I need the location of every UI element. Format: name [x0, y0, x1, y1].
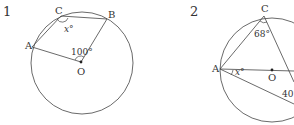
figure-1: 1 A C B O x° 100°: [3, 4, 133, 114]
angle-x-label: x°: [64, 24, 74, 34]
figure-number-2: 2: [190, 4, 198, 19]
angle-100-label: 100°: [71, 47, 93, 57]
point-c-label-2: C: [261, 3, 269, 14]
circle-1: [31, 12, 133, 114]
point-o-label-2: O: [268, 72, 276, 83]
figure-2: 2 A C O 68° x° 40°: [190, 3, 294, 122]
point-c-label: C: [55, 5, 63, 16]
point-o-label: O: [77, 66, 85, 77]
chord-ac-2: [220, 16, 264, 69]
point-a-label-2: A: [211, 63, 220, 74]
chord-ac: [32, 16, 61, 47]
figure-number-1: 1: [3, 4, 11, 19]
diameter-a-o: [220, 69, 294, 71]
angle-68-label: 68°: [254, 29, 270, 39]
angle-x-label-2: x°: [235, 67, 245, 77]
point-a-label: A: [24, 40, 33, 51]
center-dot-2: [271, 69, 274, 72]
geometry-figures: 1 A C B O x° 100° 2 A C O 68° x° 40°: [0, 0, 294, 125]
center-dot-1: [80, 61, 83, 64]
angle-40-label: 40°: [282, 89, 294, 99]
point-b-label: B: [108, 9, 115, 20]
